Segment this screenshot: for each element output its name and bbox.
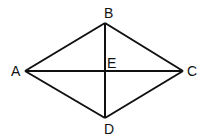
label-b: B [104,5,113,21]
label-e: E [107,55,116,71]
label-c: C [187,63,197,79]
label-a: A [11,63,21,79]
segment-bc [105,23,183,71]
segment-da [25,71,105,118]
diagram-canvas: A B C E D [0,0,204,140]
rhombus-diagram: A B C E D [0,0,204,140]
segment-cd [105,71,183,118]
label-d: D [104,121,114,137]
segment-ab [25,23,105,71]
